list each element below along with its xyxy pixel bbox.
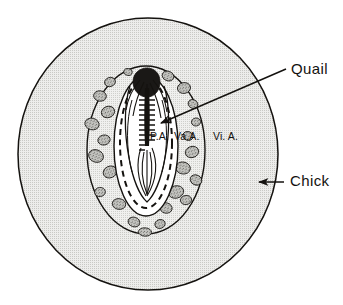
label-vitelline-area: Vi. A.	[213, 130, 238, 142]
label-quail: Quail	[291, 60, 328, 77]
figure-root: Quail Chick P.A. Va.A. Vi. A.	[0, 0, 343, 305]
neural-tube-midline	[144, 88, 150, 146]
label-vascular-area: Va.A.	[174, 130, 199, 142]
label-chick: Chick	[290, 172, 330, 189]
diagram-canvas: Quail Chick P.A. Va.A. Vi. A.	[0, 0, 343, 305]
label-primitive-area: P.A.	[150, 130, 169, 142]
